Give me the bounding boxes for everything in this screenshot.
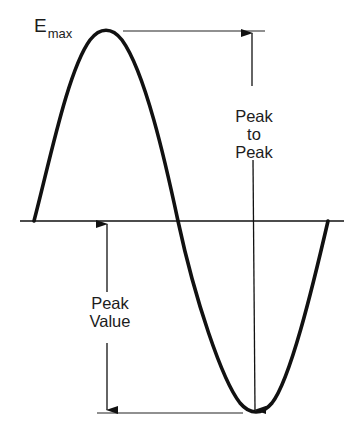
peak-value-line-2: Value (78, 312, 142, 330)
peak-value-label: Peak Value (78, 294, 142, 330)
emax-label: Emax (34, 16, 71, 37)
sine-wave-diagram: Emax Peak to Peak Peak Value (0, 0, 362, 439)
peak-to-peak-line-1: Peak (228, 107, 280, 125)
peak-to-peak-label: Peak to Peak (228, 107, 280, 161)
peak-to-peak-line-3: Peak (228, 143, 280, 161)
diagram-canvas (0, 0, 362, 439)
peak-to-peak-line-2: to (228, 125, 280, 143)
emax-subscript: max (48, 26, 73, 41)
peak-value-line-1: Peak (78, 294, 142, 312)
emax-main-text: E (34, 15, 47, 36)
peak-to-peak-arrow-down (253, 160, 255, 410)
